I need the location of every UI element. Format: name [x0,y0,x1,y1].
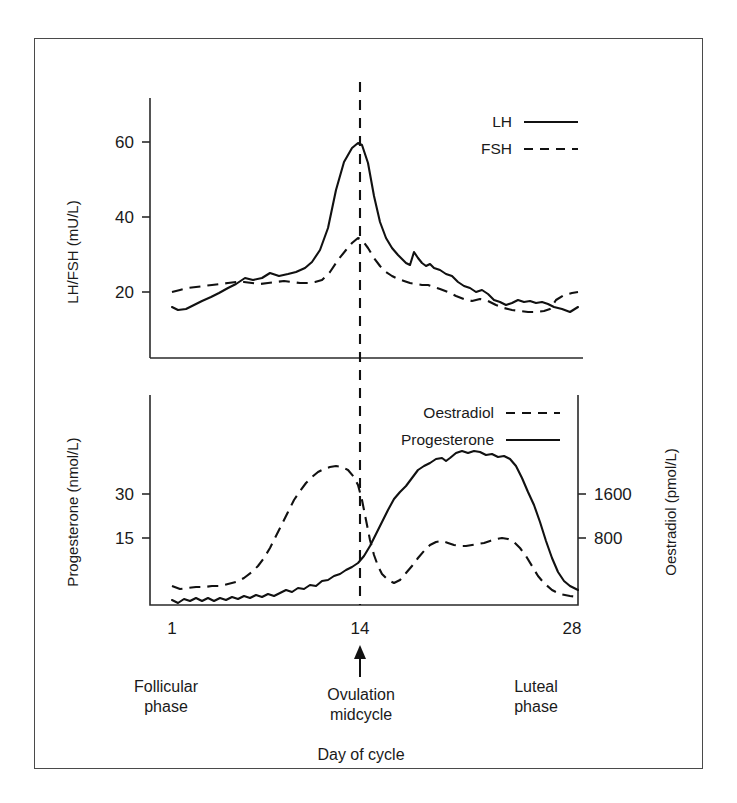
top-y-axis-label: LH/FSH (mU/L) [64,200,81,303]
legend-label-lh: LH [492,113,512,130]
follicular-phase-line1: Follicular [134,678,199,695]
phase-annotations: Follicular phase Ovulation midcycle Lute… [134,678,558,763]
bottom-legend: Oestradiol Progesterone [401,404,560,448]
bottom-ytick-label-1600: 1600 [594,485,632,504]
top-legend: LH FSH [481,113,578,157]
xtick-label-1: 1 [167,619,176,638]
x-axis-labels: 1 14 28 [167,619,581,638]
bottom-panel-frame [150,395,578,605]
bottom-y-axis-label-left: Progesterone (nmol/L) [64,437,81,586]
luteal-phase-line1: Luteal [514,678,558,695]
bottom-ytick-label-15: 15 [115,529,134,548]
top-ytick-label-20: 20 [115,283,134,302]
oestradiol-curve [172,466,578,597]
top-panel: 60 40 20 LH/FSH (mU/L) [64,98,583,358]
luteal-phase-line2: phase [514,698,558,715]
progesterone-curve [172,451,578,603]
legend-label-progesterone: Progesterone [401,431,494,448]
bottom-y-axis-label-right: Oestradiol (pmol/L) [662,448,679,576]
ovulation-arrow-icon [354,645,366,677]
bottom-panel: 30 15 1600 800 Progesterone (nmol/L) Oes… [64,395,679,605]
hormone-cycle-figure: 60 40 20 LH/FSH (mU/L) LH FSH 30 15 1600… [0,0,737,803]
follicular-phase-line2: phase [144,698,188,715]
legend-label-oestradiol: Oestradiol [423,404,494,421]
ovulation-label-line2: midcycle [330,706,392,723]
top-ytick-label-40: 40 [115,208,134,227]
xtick-label-28: 28 [563,619,582,638]
xtick-label-14: 14 [351,619,370,638]
legend-label-fsh: FSH [481,140,512,157]
bottom-ytick-label-800: 800 [594,529,622,548]
top-ytick-label-60: 60 [115,133,134,152]
bottom-ytick-label-30: 30 [115,485,134,504]
lh-curve [172,143,578,312]
day-of-cycle-label: Day of cycle [317,746,404,763]
ovulation-label-line1: Ovulation [327,686,395,703]
